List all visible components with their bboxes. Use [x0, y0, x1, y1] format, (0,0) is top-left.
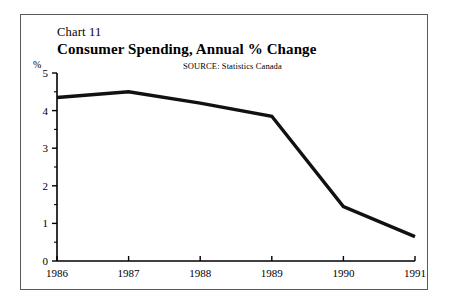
x-axis-tick-label: 1988 [189, 267, 212, 279]
x-axis-tick-label: 1991 [404, 267, 426, 279]
x-axis-tick-label: 1989 [261, 267, 284, 279]
x-axis-tick-labels: 198619871988198919901991 [46, 267, 426, 279]
y-axis-tick-label: 0 [43, 255, 49, 267]
y-axis-tick-label: 3 [43, 142, 49, 154]
chart-plot-area: 012345 198619871988198919901991 [21, 15, 429, 291]
data-series-line [57, 92, 415, 237]
y-axis-tick-label: 5 [43, 67, 49, 79]
y-axis-tick-labels: 012345 [43, 67, 49, 267]
y-axis-tick-label: 2 [43, 180, 49, 192]
x-axis-tick-label: 1990 [332, 267, 355, 279]
y-axis-tick-label: 1 [43, 217, 49, 229]
y-axis: 012345 [43, 67, 58, 267]
y-axis-tick-label: 4 [43, 105, 49, 117]
chart-figure-frame: Chart 11 Consumer Spending, Annual % Cha… [20, 14, 428, 290]
x-axis-tick-label: 1987 [118, 267, 141, 279]
x-axis: 198619871988198919901991 [46, 256, 426, 279]
x-axis-tick-label: 1986 [46, 267, 69, 279]
